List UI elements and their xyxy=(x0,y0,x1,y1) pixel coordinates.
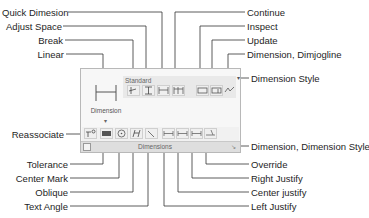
override-button[interactable] xyxy=(204,128,217,139)
right-justify-button[interactable] xyxy=(190,128,203,139)
linear-dimension-icon xyxy=(87,77,125,105)
dimension-button-label: Dimension xyxy=(87,107,125,114)
callout-continue: Continue xyxy=(247,7,285,18)
callout-adjust-space: Adjust Space xyxy=(2,21,62,32)
continue-button[interactable] xyxy=(172,85,185,96)
callout-quick-dimension: Quick Dimesion xyxy=(2,7,66,18)
center-justify-icon xyxy=(177,129,188,138)
break-icon xyxy=(128,86,139,95)
update-button[interactable] xyxy=(210,85,223,96)
left-justify-button[interactable] xyxy=(162,128,175,139)
oblique-icon xyxy=(131,129,142,138)
callout-right-justify: Right Justify xyxy=(251,173,303,184)
left-justify-icon xyxy=(163,129,174,138)
callout-override: Override xyxy=(251,159,287,170)
callout-dimension-style: Dimension Style xyxy=(251,73,320,84)
callout-reassociate: Reassociate xyxy=(2,129,64,140)
inspect-button[interactable] xyxy=(196,85,209,96)
adjust-space-button[interactable] xyxy=(142,85,155,96)
dialog-launcher-icon[interactable]: ↘ xyxy=(231,143,236,150)
callout-text-angle: Text Angle xyxy=(2,201,68,212)
center-mark-button[interactable] xyxy=(115,128,128,139)
callout-linear: Linear xyxy=(2,49,64,60)
adjust-space-icon xyxy=(143,86,154,95)
callout-tolerance: Tolerance xyxy=(2,159,68,170)
jogline-icon xyxy=(224,85,235,94)
tolerance-icon xyxy=(101,129,112,138)
panel-title: Dimensions xyxy=(138,143,172,150)
inspect-icon xyxy=(197,86,208,95)
dimension-linear-button[interactable]: Dimension ▾ xyxy=(87,77,125,117)
quick-dimension-icon xyxy=(158,86,169,95)
callout-dimjogline: Dimension, Dimjogline xyxy=(247,49,342,60)
dimension-style-value: Standard xyxy=(125,77,151,84)
center-mark-icon xyxy=(116,129,127,138)
dimension-style-arrow-icon[interactable]: ▾ xyxy=(237,74,240,81)
tolerance-button[interactable] xyxy=(100,128,113,139)
reassociate-icon xyxy=(85,129,96,138)
panel-title-bar: Dimensions ↘ xyxy=(81,141,240,152)
break-button[interactable] xyxy=(127,85,140,96)
reassociate-button[interactable] xyxy=(84,128,97,139)
quick-dimension-button[interactable] xyxy=(157,85,170,96)
callout-center-mark: Center Mark xyxy=(2,173,68,184)
callout-center-justify: Center justify xyxy=(251,187,306,198)
update-icon xyxy=(211,86,222,95)
callout-left-justify: Left Justify xyxy=(251,201,296,212)
pin-panel-icon[interactable] xyxy=(83,143,91,151)
continue-icon xyxy=(173,86,184,95)
callout-oblique: Oblique xyxy=(2,187,68,198)
dropdown-arrow-icon: ▾ xyxy=(104,117,107,124)
right-justify-icon xyxy=(191,129,202,138)
secondary-tools-row xyxy=(82,127,239,141)
oblique-button[interactable] xyxy=(130,128,143,139)
callout-inspect: Inspect xyxy=(247,21,278,32)
callout-dimension-style-launcher: Dimension, Dimension Style.. xyxy=(251,141,369,152)
dimensions-panel: Dimension ▾ Standard ▾ Dimensions ↘ xyxy=(80,68,241,153)
callout-update: Update xyxy=(247,35,278,46)
dimension-style-dropdown[interactable]: Standard ▾ xyxy=(123,76,236,98)
callout-break: Break xyxy=(2,35,63,46)
center-justify-button[interactable] xyxy=(176,128,189,139)
text-angle-icon xyxy=(146,129,157,138)
text-angle-button[interactable] xyxy=(145,128,158,139)
dimjogline-button[interactable] xyxy=(224,85,237,96)
override-icon xyxy=(205,129,216,138)
